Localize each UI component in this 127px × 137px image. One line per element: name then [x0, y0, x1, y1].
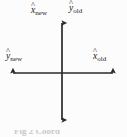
hat-accent-icon: ^ [31, 1, 35, 10]
axis-label-y-old: ^yold [69, 4, 82, 15]
coordinate-frame-figure: ^xnew ^yold ^ynew ^xold Fig 2 Coord [0, 0, 127, 137]
caption-clip-strip: Fig 2 Coord [0, 130, 127, 137]
axis-label-x-old: ^xold [93, 52, 106, 63]
symbol-x-old: ^x [93, 52, 97, 62]
symbol-y-old: ^y [69, 4, 73, 14]
axis-label-x-new: ^xnew [31, 6, 47, 17]
hat-accent-icon: ^ [69, 0, 73, 8]
axes-drawing [0, 0, 127, 137]
axis-label-y-new: ^ynew [6, 52, 22, 63]
hat-accent-icon: ^ [93, 47, 97, 56]
subscript-new: new [10, 55, 22, 63]
symbol-x-new: ^x [31, 6, 35, 16]
subscript-old: old [73, 7, 82, 15]
figure-caption: Fig 2 Coord [14, 130, 60, 136]
symbol-y-new: ^y [6, 52, 10, 62]
subscript-new: new [35, 9, 47, 17]
subscript-old: old [97, 55, 106, 63]
hat-accent-icon: ^ [6, 47, 10, 56]
